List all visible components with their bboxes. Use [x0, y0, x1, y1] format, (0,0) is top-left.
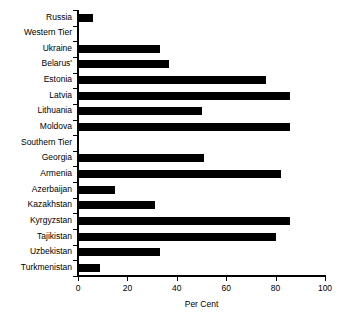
- x-axis-tick: [226, 277, 227, 281]
- y-axis-label: Tajikistan: [0, 231, 72, 241]
- bar-row: [78, 10, 325, 26]
- bar: [78, 170, 281, 178]
- bar-row: [78, 88, 325, 104]
- bar-row: [78, 182, 325, 198]
- bar: [78, 107, 202, 115]
- bar-chart: RussiaWestern TierUkraineBelarus'Estonia…: [0, 0, 344, 318]
- x-axis-tick: [276, 277, 277, 281]
- y-axis-label: Ukraine: [0, 43, 72, 53]
- y-axis-label: Turkmenistan: [0, 262, 72, 272]
- x-axis-tick-label: 40: [157, 283, 197, 294]
- x-axis-tick-label: 20: [107, 283, 147, 294]
- bar: [78, 217, 290, 225]
- bar-row: [78, 73, 325, 89]
- y-axis-label: Kazakhstan: [0, 199, 72, 209]
- bar: [78, 45, 160, 53]
- y-axis-label: Moldova: [0, 121, 72, 131]
- bar: [78, 201, 155, 209]
- y-axis-label: Georgia: [0, 152, 72, 162]
- bar-row: [78, 135, 325, 151]
- x-axis-tick-label: 100: [305, 283, 344, 294]
- bar: [78, 248, 160, 256]
- x-axis-tick-label: 0: [58, 283, 98, 294]
- x-axis-title: Per Cent: [78, 299, 325, 310]
- bar-row: [78, 229, 325, 245]
- bar-row: [78, 213, 325, 229]
- bar-row: [78, 151, 325, 167]
- x-axis-tick: [177, 277, 178, 281]
- bar: [78, 233, 276, 241]
- y-axis-label: Southern Tier: [0, 137, 72, 147]
- bar-row: [78, 26, 325, 42]
- y-axis-label: Estonia: [0, 74, 72, 84]
- bar-row: [78, 166, 325, 182]
- y-axis-label: Armenia: [0, 168, 72, 178]
- y-axis-label: Azerbaijan: [0, 184, 72, 194]
- y-axis-label: Belarus': [0, 58, 72, 68]
- y-axis-label: Kyrgyzstan: [0, 215, 72, 225]
- bar-row: [78, 198, 325, 214]
- y-axis-label: Latvia: [0, 90, 72, 100]
- bar: [78, 76, 266, 84]
- bar: [78, 123, 290, 131]
- bar: [78, 186, 115, 194]
- x-axis-tick: [78, 277, 79, 281]
- bars-container: [78, 10, 325, 276]
- bar-row: [78, 104, 325, 120]
- bar-row: [78, 245, 325, 261]
- bar: [78, 60, 169, 68]
- bar-row: [78, 260, 325, 276]
- x-axis-tick: [127, 277, 128, 281]
- y-axis-label: Russia: [0, 12, 72, 22]
- bar-row: [78, 57, 325, 73]
- y-axis-label: Western Tier: [0, 27, 72, 37]
- x-axis-tick-label: 80: [256, 283, 296, 294]
- x-axis-tick-label: 60: [206, 283, 246, 294]
- y-axis-label: Lithuania: [0, 105, 72, 115]
- bar-row: [78, 120, 325, 136]
- y-axis-label: Uzbekistan: [0, 246, 72, 256]
- bar: [78, 154, 204, 162]
- x-axis-tick: [325, 277, 326, 281]
- bar: [78, 92, 290, 100]
- bar: [78, 264, 100, 272]
- bar-row: [78, 41, 325, 57]
- bar: [78, 14, 93, 22]
